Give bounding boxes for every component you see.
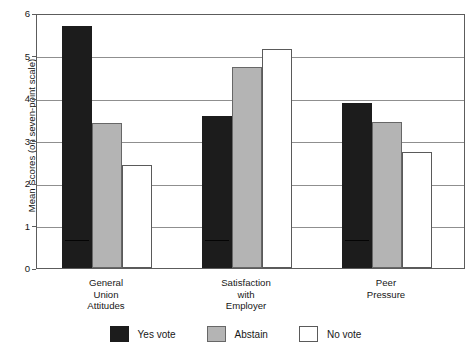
- legend-swatch-yes-vote-icon: [110, 326, 129, 342]
- x-axis-category-label: Satisfaction with Employer: [186, 277, 306, 312]
- bar: [372, 122, 402, 268]
- bar: [262, 49, 292, 268]
- legend-swatch-abstain-icon: [207, 326, 226, 342]
- bar: [62, 26, 92, 268]
- legend-label-no-vote: No vote: [327, 329, 361, 340]
- bar: [232, 67, 262, 268]
- bar: [342, 103, 372, 268]
- legend-label-yes-vote: Yes vote: [138, 329, 176, 340]
- legend-entry-yes-vote: Yes vote: [110, 326, 176, 342]
- clipped-title: [0, 0, 471, 9]
- legend: Yes vote Abstain No vote: [0, 326, 471, 342]
- legend-swatch-no-vote-icon: [299, 326, 318, 342]
- y-tick-label: 0: [6, 263, 30, 274]
- legend-entry-abstain: Abstain: [207, 326, 268, 342]
- y-tick-label: 6: [6, 8, 30, 19]
- bar: [202, 116, 232, 268]
- bar: [402, 152, 432, 268]
- gridline: [37, 57, 464, 58]
- legend-entry-no-vote: No vote: [299, 326, 361, 342]
- bar: [122, 165, 152, 268]
- bar-chart: Mean Scores (on seven-point scale) 01234…: [0, 0, 471, 350]
- legend-label-abstain: Abstain: [235, 329, 268, 340]
- bar: [92, 123, 122, 268]
- y-tick-label: 2: [6, 178, 30, 189]
- y-tick-label: 3: [6, 136, 30, 147]
- y-tick-label: 4: [6, 93, 30, 104]
- plot-area: [36, 14, 465, 269]
- x-axis-category-label: General Union Attitudes: [46, 277, 166, 312]
- y-tick-label: 5: [6, 51, 30, 62]
- y-tick-label: 1: [6, 221, 30, 232]
- x-axis-category-label: Peer Pressure: [326, 277, 446, 300]
